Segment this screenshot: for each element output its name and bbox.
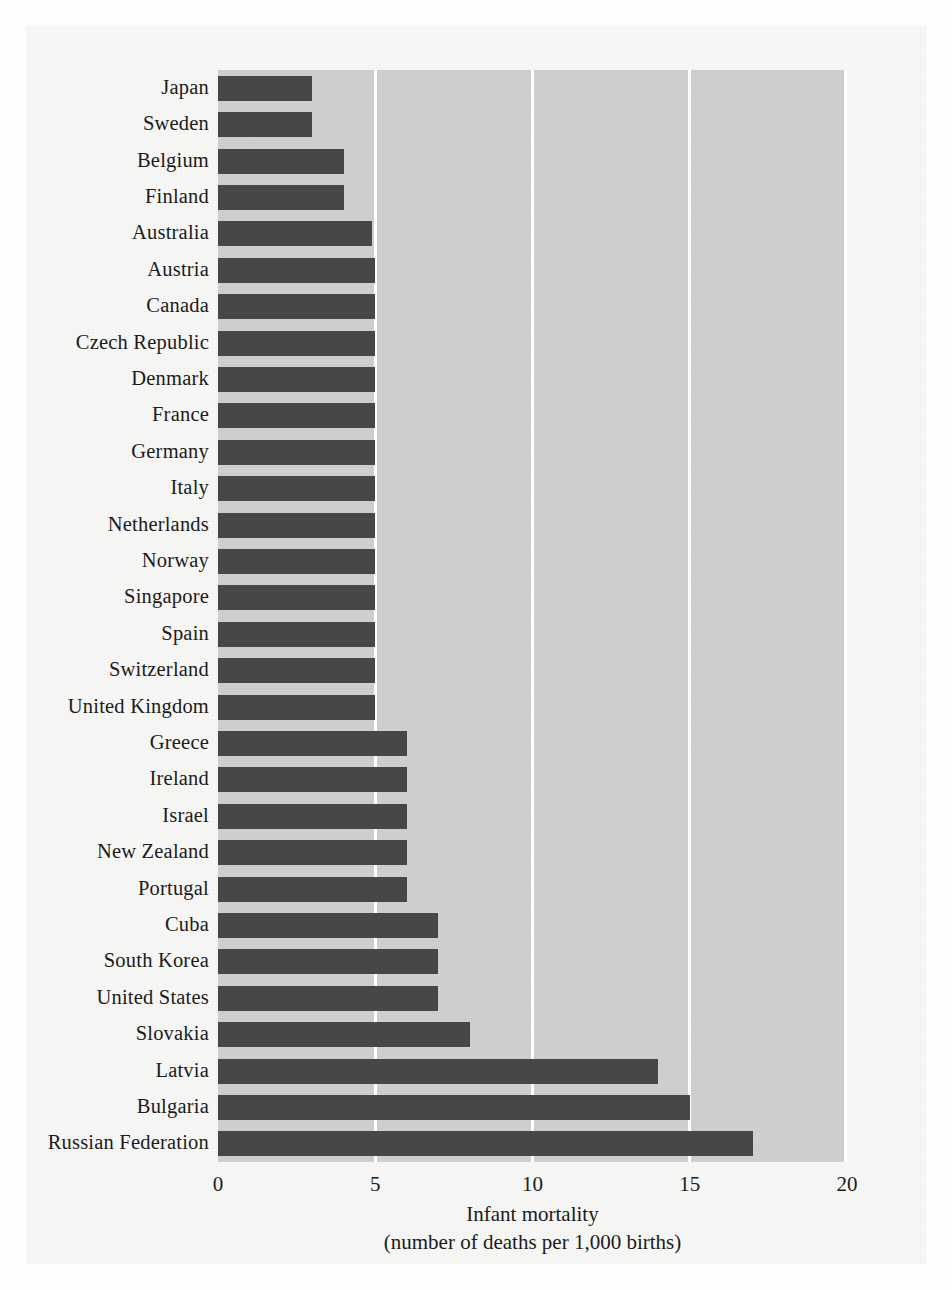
bar bbox=[218, 949, 438, 974]
bar bbox=[218, 149, 344, 174]
bar bbox=[218, 877, 407, 902]
category-label: Cuba bbox=[0, 912, 209, 937]
bar bbox=[218, 221, 372, 246]
category-label: Austria bbox=[0, 257, 209, 282]
category-label: Bulgaria bbox=[0, 1094, 209, 1119]
gridline-15 bbox=[688, 70, 691, 1162]
category-label: Netherlands bbox=[0, 512, 209, 537]
bar bbox=[218, 840, 407, 865]
category-label: Spain bbox=[0, 621, 209, 646]
gridline-20 bbox=[844, 70, 847, 1162]
category-label: Germany bbox=[0, 439, 209, 464]
bar bbox=[218, 476, 375, 501]
bar bbox=[218, 112, 312, 137]
x-tick-label-0: 0 bbox=[213, 1170, 224, 1198]
bar bbox=[218, 1022, 470, 1047]
bar bbox=[218, 804, 407, 829]
category-label: United Kingdom bbox=[0, 694, 209, 719]
bar bbox=[218, 403, 375, 428]
bar bbox=[218, 986, 438, 1011]
bar bbox=[218, 1131, 753, 1156]
bar bbox=[218, 767, 407, 792]
x-axis-title-line-1: Infant mortality bbox=[466, 1202, 598, 1226]
x-tick-label-5: 5 bbox=[370, 1170, 381, 1198]
category-label: France bbox=[0, 402, 209, 427]
bar bbox=[218, 331, 375, 356]
category-label: Italy bbox=[0, 475, 209, 500]
category-label: Japan bbox=[0, 75, 209, 100]
category-label: Denmark bbox=[0, 366, 209, 391]
bar bbox=[218, 367, 375, 392]
plot-area bbox=[218, 70, 847, 1162]
bar bbox=[218, 294, 375, 319]
category-label: Greece bbox=[0, 730, 209, 755]
category-label: Slovakia bbox=[0, 1021, 209, 1046]
category-label: Portugal bbox=[0, 876, 209, 901]
category-label: Norway bbox=[0, 548, 209, 573]
category-label: Sweden bbox=[0, 111, 209, 136]
x-axis-tick-labels: 05101520 bbox=[0, 1170, 952, 1200]
bar bbox=[218, 76, 312, 101]
category-axis-labels: JapanSwedenBelgiumFinlandAustraliaAustri… bbox=[0, 70, 209, 1162]
category-label: Belgium bbox=[0, 148, 209, 173]
bar bbox=[218, 1095, 690, 1120]
category-label: Singapore bbox=[0, 584, 209, 609]
bar bbox=[218, 513, 375, 538]
bar bbox=[218, 185, 344, 210]
bar bbox=[218, 658, 375, 683]
bar bbox=[218, 440, 375, 465]
category-label: South Korea bbox=[0, 948, 209, 973]
bar bbox=[218, 585, 375, 610]
bar bbox=[218, 622, 375, 647]
category-label: Finland bbox=[0, 184, 209, 209]
bar bbox=[218, 913, 438, 938]
category-label: Australia bbox=[0, 220, 209, 245]
category-label: Canada bbox=[0, 293, 209, 318]
category-label: New Zealand bbox=[0, 839, 209, 864]
category-label: Latvia bbox=[0, 1058, 209, 1083]
bar bbox=[218, 731, 407, 756]
infant-mortality-bar-chart: JapanSwedenBelgiumFinlandAustraliaAustri… bbox=[0, 0, 952, 1290]
bar bbox=[218, 695, 375, 720]
category-label: Czech Republic bbox=[0, 330, 209, 355]
category-label: Russian Federation bbox=[0, 1130, 209, 1155]
x-tick-label-15: 15 bbox=[679, 1170, 700, 1198]
x-axis-title: Infant mortality (number of deaths per 1… bbox=[218, 1200, 847, 1256]
category-label: United States bbox=[0, 985, 209, 1010]
category-label: Ireland bbox=[0, 766, 209, 791]
bar bbox=[218, 1059, 658, 1084]
category-label: Switzerland bbox=[0, 657, 209, 682]
x-tick-label-20: 20 bbox=[837, 1170, 858, 1198]
gridline-10 bbox=[531, 70, 534, 1162]
category-label: Israel bbox=[0, 803, 209, 828]
x-axis-title-line-2: (number of deaths per 1,000 births) bbox=[218, 1228, 847, 1256]
bar bbox=[218, 258, 375, 283]
bar bbox=[218, 549, 375, 574]
x-tick-label-10: 10 bbox=[522, 1170, 543, 1198]
